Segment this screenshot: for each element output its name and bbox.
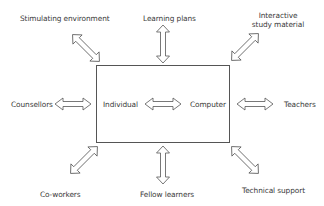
label-interactive-study-material: Interactive study material (248, 11, 308, 29)
label-individual: Individual (103, 100, 138, 109)
top-left-double-arrow-icon (68, 30, 104, 66)
bottom-right-double-arrow-icon (227, 142, 263, 178)
label-co-workers: Co-workers (40, 190, 81, 199)
top-double-arrow-icon (157, 25, 170, 63)
top-right-double-arrow-icon (227, 29, 263, 65)
left-double-arrow-icon (55, 98, 91, 110)
label-learning-plans: Learning plans (143, 14, 196, 23)
label-interactive-line2: study material (248, 20, 308, 29)
label-stimulating-environment: Stimulating environment (20, 14, 110, 23)
label-interactive-line1: Interactive (248, 11, 308, 20)
label-fellow-learners: Fellow learners (140, 190, 194, 199)
label-teachers: Teachers (284, 100, 316, 109)
inner-double-arrow-icon (145, 98, 181, 110)
label-technical-support: Technical support (242, 186, 305, 195)
right-double-arrow-icon (237, 98, 273, 110)
label-counsellors: Counsellors (11, 100, 53, 109)
label-computer: Computer (190, 100, 226, 109)
bottom-double-arrow-icon (157, 146, 170, 184)
bottom-left-double-arrow-icon (66, 142, 102, 178)
